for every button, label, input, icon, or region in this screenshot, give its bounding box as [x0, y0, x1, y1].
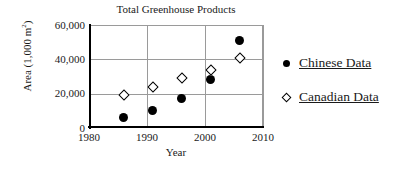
legend-item-label: Canadian Data [299, 89, 379, 105]
open-diamond-icon [283, 94, 299, 101]
y-axis-label-text: Area (1,000 m [21, 28, 33, 92]
plot-area [89, 25, 263, 128]
y-axis-line [89, 24, 91, 129]
plot-frame-top [89, 25, 263, 26]
legend-marker-shape [282, 92, 292, 102]
legend-item: Canadian Data [283, 80, 411, 114]
y-axis-label-close: ) [21, 21, 33, 25]
y-tick-label: 20,000 [39, 88, 85, 99]
gridline-horizontal [89, 94, 263, 95]
legend-marker-shape [283, 60, 290, 67]
data-point-open-diamond [147, 81, 158, 92]
y-axis-label-exponent: 2 [20, 24, 28, 28]
y-tick-label: 60,000 [39, 20, 85, 31]
filled-circle-icon [283, 60, 299, 67]
data-point-open-diamond [234, 52, 245, 63]
data-point-filled-circle [119, 113, 128, 122]
data-point-filled-circle [177, 94, 186, 103]
data-point-open-diamond [205, 64, 216, 75]
data-point-filled-circle [235, 36, 244, 45]
x-axis-tick-labels: 1980199020002010 [0, 131, 300, 147]
y-tick-label: 40,000 [39, 54, 85, 65]
legend-item: Chinese Data [283, 46, 411, 80]
chart-figure: Total Greenhouse Products Area (1,000 m2… [0, 0, 414, 171]
chart-legend: Chinese DataCanadian Data [283, 46, 411, 114]
data-point-filled-circle [206, 75, 215, 84]
x-tick-label: 1980 [69, 131, 109, 143]
legend-item-label: Chinese Data [299, 55, 371, 71]
x-axis-line [88, 126, 264, 128]
x-tick-label: 2000 [185, 131, 225, 143]
x-tick-label: 1990 [127, 131, 167, 143]
data-point-open-diamond [118, 89, 129, 100]
x-axis-label: Year [89, 146, 263, 159]
gridline-vertical [263, 25, 264, 128]
x-tick-label: 2010 [243, 131, 283, 143]
chart-title: Total Greenhouse Products [89, 3, 263, 16]
data-point-filled-circle [148, 106, 157, 115]
y-axis-label: Area (1,000 m2) [21, 1, 33, 111]
data-point-open-diamond [176, 73, 187, 84]
